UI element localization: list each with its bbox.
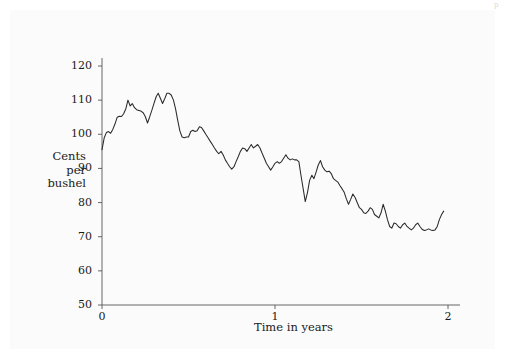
y-tick-label-60: 60 bbox=[62, 264, 92, 277]
y-tick-label-110: 110 bbox=[62, 93, 92, 106]
y-tick-label-100: 100 bbox=[62, 127, 92, 140]
x-axis-label: Time in years bbox=[0, 320, 505, 334]
price-series-line bbox=[102, 93, 444, 230]
y-axis-label-line3: bushel bbox=[18, 177, 86, 191]
y-tick-label-70: 70 bbox=[62, 230, 92, 243]
y-tick-label-80: 80 bbox=[62, 196, 92, 209]
x-tick-label-0: 0 bbox=[92, 310, 112, 323]
figure-page: p Cents per bushel Time in years 5060708… bbox=[0, 0, 505, 359]
x-tick-label-2: 2 bbox=[438, 310, 458, 323]
y-tick-label-50: 50 bbox=[62, 298, 92, 311]
x-tick-label-1: 1 bbox=[265, 310, 285, 323]
chart-tick-marks bbox=[98, 66, 448, 309]
y-tick-label-120: 120 bbox=[62, 59, 92, 72]
y-tick-label-90: 90 bbox=[62, 161, 92, 174]
chart-axes bbox=[102, 58, 460, 305]
